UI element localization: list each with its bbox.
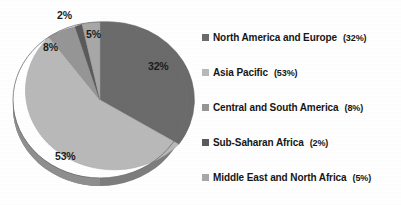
pie-chart-figure: 32% 53% 8% 2% 5% North America and Europ… (0, 0, 401, 205)
legend-item-percent: (8%) (345, 103, 364, 113)
legend-swatch-icon (202, 104, 209, 111)
pie-label-central-south-america: 8% (43, 41, 58, 53)
legend-swatch-icon (202, 34, 209, 41)
legend-item-percent: (53%) (274, 68, 298, 78)
pie-chart-graphic: 32% 53% 8% 2% 5% (0, 0, 200, 205)
pie-label-middle-east-north-africa: 5% (86, 28, 101, 40)
legend-item-label: Sub-Saharan Africa (213, 137, 304, 148)
legend-item-label: Asia Pacific (213, 67, 268, 78)
legend-item-percent: (32%) (343, 33, 367, 43)
legend-item-percent: (2%) (310, 138, 329, 148)
legend-item-central-south-america: Central and South America (8%) (202, 102, 363, 113)
pie-label-sub-saharan-africa: 2% (57, 9, 72, 21)
legend-swatch-icon (202, 174, 209, 181)
legend-item-asia-pacific: Asia Pacific (53%) (202, 67, 297, 78)
chart-legend: North America and Europe (32%) Asia Paci… (202, 0, 401, 205)
legend-swatch-icon (202, 139, 209, 146)
pie-label-asia-pacific: 53% (55, 150, 75, 162)
legend-item-sub-saharan-africa: Sub-Saharan Africa (2%) (202, 137, 328, 148)
legend-item-label: Central and South America (213, 102, 339, 113)
legend-item-label: Middle East and North Africa (213, 172, 347, 183)
legend-item-north-america-europe: North America and Europe (32%) (202, 32, 366, 43)
legend-item-middle-east-north-africa: Middle East and North Africa (5%) (202, 172, 371, 183)
legend-item-percent: (5%) (353, 173, 372, 183)
pie-label-north-america-europe: 32% (148, 60, 168, 72)
legend-item-label: North America and Europe (213, 32, 337, 43)
legend-swatch-icon (202, 69, 209, 76)
